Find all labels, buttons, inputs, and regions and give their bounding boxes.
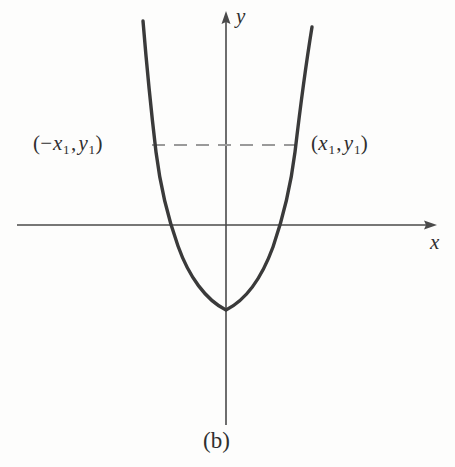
left-label-minus-sign: −	[40, 131, 53, 155]
left-point-label: (−x1,y1)	[33, 131, 103, 158]
left-label-x-subscript: 1	[63, 142, 70, 157]
left-label-x-variable: x	[53, 131, 63, 155]
right-label-y-subscript: 1	[353, 142, 360, 157]
right-label-close-paren: )	[361, 131, 368, 155]
right-label-comma: ,	[335, 131, 344, 155]
parabola-figure: y x (−x1,y1) (x1,y1) (b)	[0, 0, 455, 467]
figure-caption: (b)	[203, 428, 230, 454]
left-label-y-variable: y	[78, 131, 88, 155]
x-axis-label: x	[430, 230, 439, 255]
y-axis-label: y	[236, 4, 245, 29]
right-point-label: (x1,y1)	[311, 131, 368, 158]
vertical-axis	[222, 11, 231, 425]
horizontal-axis	[17, 221, 437, 230]
parabola-curve	[143, 21, 312, 310]
right-label-y-variable: y	[344, 131, 354, 155]
right-label-x-variable: x	[318, 131, 328, 155]
left-label-close-paren: )	[95, 131, 102, 155]
figure-canvas	[0, 0, 455, 467]
